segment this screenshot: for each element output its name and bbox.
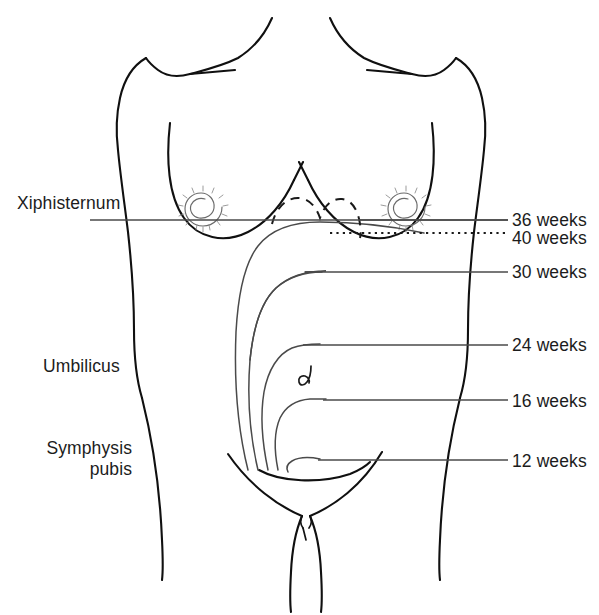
landmark-label-symphysis-pubis: Symphysis pubis <box>32 438 132 479</box>
symphysis-pubis-line-2: pubis <box>32 459 132 480</box>
symphysis-pubis-line-1: Symphysis <box>32 438 132 459</box>
fundal-curve-24-weeks <box>262 344 320 470</box>
week-label-16-weeks: 16 weeks <box>512 391 587 412</box>
pelvis-groin <box>228 452 382 612</box>
week-label-30-weeks: 30 weeks <box>512 262 587 283</box>
fundal-curve-30-weeks <box>249 271 326 470</box>
navel-icon <box>299 366 311 385</box>
week-label-24-weeks: 24 weeks <box>512 335 587 356</box>
left-nipple-areola <box>178 186 228 232</box>
fundal-curve-36-weeks <box>272 198 361 238</box>
fundal-curve-30-weeks-top <box>250 272 322 360</box>
week-label-40-weeks: 40 weeks <box>512 228 587 249</box>
fundal-height-diagram: Xiphisternum Umbilicus Symphysis pubis 3… <box>0 0 599 615</box>
fundal-curve-40-weeks <box>236 222 425 470</box>
week-label-12-weeks: 12 weeks <box>512 451 587 472</box>
torso-outline <box>117 18 486 580</box>
landmark-label-xiphisternum: Xiphisternum <box>17 193 120 214</box>
diagram-canvas <box>0 0 599 615</box>
landmark-label-umbilicus: Umbilicus <box>43 356 120 377</box>
week-leader-lines <box>303 220 508 460</box>
fundal-height-curves <box>236 198 425 472</box>
fundal-curve-12-weeks <box>287 458 320 472</box>
